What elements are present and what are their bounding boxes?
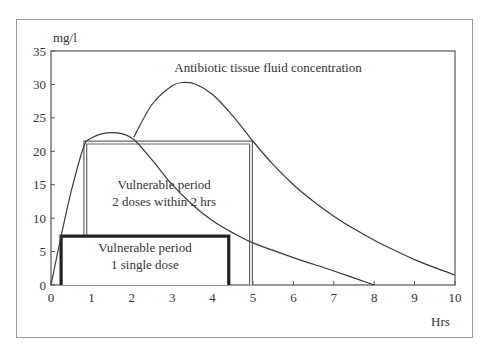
- y-axis-label: mg/l: [53, 30, 77, 45]
- x-tick-label: 9: [411, 290, 418, 305]
- region-label: Vulnerable period: [98, 240, 192, 255]
- x-tick-label: 7: [331, 290, 338, 305]
- x-tick-label: 3: [169, 290, 176, 305]
- x-tick-label: 2: [129, 290, 136, 305]
- region-label: Vulnerable period: [117, 177, 211, 192]
- region-single-dose: Vulnerable period1 single dose: [61, 236, 229, 285]
- y-tick-label: 20: [33, 144, 46, 159]
- x-tick-label: 5: [250, 290, 257, 305]
- region-label: 2 doses within 2 hrs: [112, 194, 216, 209]
- y-tick-label: 15: [33, 177, 46, 192]
- x-tick-label: 0: [48, 290, 55, 305]
- x-tick-label: 8: [371, 290, 378, 305]
- x-tick-label: 4: [209, 290, 216, 305]
- y-tick-label: 0: [40, 278, 47, 293]
- y-tick-label: 35: [33, 44, 46, 59]
- chart: 05101520253035 012345678910 Vulnerable p…: [0, 0, 483, 347]
- y-tick-label: 10: [33, 211, 46, 226]
- x-axis-label: Hrs: [431, 314, 450, 329]
- y-tick-label: 25: [33, 110, 46, 125]
- y-tick-label: 30: [33, 77, 46, 92]
- x-tick-label: 10: [449, 290, 462, 305]
- x-tick-label: 6: [290, 290, 297, 305]
- y-tick-label: 5: [40, 244, 47, 259]
- annotation-curve-label: Antibiotic tissue fluid concentration: [174, 60, 362, 75]
- x-tick-label: 1: [88, 290, 95, 305]
- region-label: 1 single dose: [111, 257, 179, 272]
